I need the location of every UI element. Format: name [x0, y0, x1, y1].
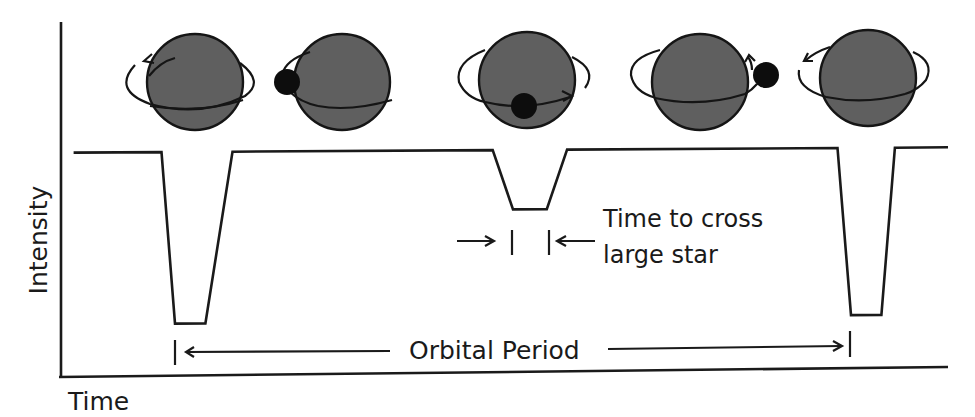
x-axis — [59, 367, 948, 377]
crossing-time-label-line2: large star — [603, 241, 718, 269]
crossing-time-annotation: Time to cross large star — [457, 205, 763, 269]
companion-star — [274, 69, 300, 95]
orbital-period-label: Orbital Period — [409, 336, 580, 365]
companion-star — [511, 93, 537, 119]
large-star — [147, 34, 243, 130]
light-curve — [74, 147, 948, 323]
orbital-period-annotation: Orbital Period — [175, 331, 850, 365]
large-star — [294, 34, 390, 130]
x-axis-label: Time — [67, 387, 129, 416]
y-axis-label: Intensity — [24, 185, 53, 294]
phase-4-companion-right — [631, 34, 779, 130]
large-star — [820, 30, 916, 126]
eclipsing-binary-diagram: Intensity Time — [0, 0, 975, 417]
phase-1-primary-eclipse — [126, 34, 254, 130]
period-arrow-left-shaft — [186, 351, 390, 352]
companion-star — [753, 62, 779, 88]
large-star — [652, 34, 748, 130]
period-arrow-right-shaft — [608, 346, 841, 349]
crossing-time-label-line1: Time to cross — [602, 205, 763, 233]
phase-3-secondary-transit — [459, 32, 590, 128]
phase-2-companion-left — [274, 34, 392, 130]
phase-5-primary-eclipse-repeat — [799, 30, 929, 126]
